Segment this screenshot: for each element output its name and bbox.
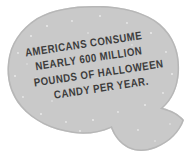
speech-bubble-graphic (0, 0, 195, 158)
bubble-body (8, 6, 184, 151)
illustration-canvas: AMERICANS CONSUME NEARLY 600 MILLION POU… (0, 0, 195, 158)
